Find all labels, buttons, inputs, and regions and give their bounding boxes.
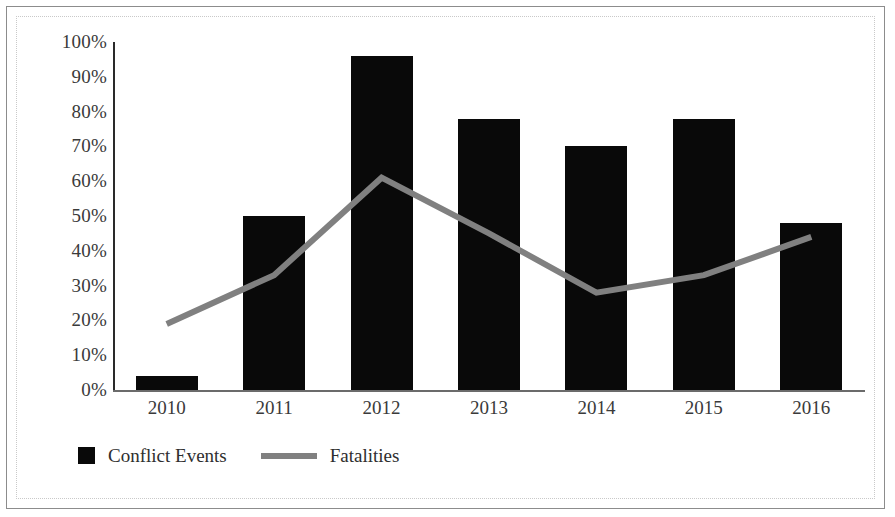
legend-label-fatalities: Fatalities (330, 446, 400, 465)
fatalities-polyline (167, 178, 812, 324)
x-axis-tick-label: 2010 (113, 398, 220, 417)
line-swatch-icon (261, 453, 317, 459)
x-axis-tick-labels: 2010201120122013201420152016 (113, 396, 865, 430)
line-series-fatalities (113, 42, 865, 390)
x-axis-line (113, 390, 865, 392)
y-axis-tick-label: 30% (21, 276, 107, 295)
y-axis-tick-label: 0% (21, 380, 107, 399)
y-axis-tick-label: 80% (21, 102, 107, 121)
y-axis-tick-label: 50% (21, 206, 107, 225)
y-axis-tick-label: 60% (21, 171, 107, 190)
y-axis-tick-label: 100% (21, 32, 107, 51)
x-axis-tick-label: 2016 (758, 398, 865, 417)
x-axis-tick-label: 2013 (435, 398, 542, 417)
legend-item-fatalities: Fatalities (261, 446, 400, 465)
x-axis-tick-label: 2015 (650, 398, 757, 417)
x-axis-tick-label: 2011 (220, 398, 327, 417)
y-axis-tick-label: 90% (21, 67, 107, 86)
y-axis-tick-label: 10% (21, 345, 107, 364)
x-axis-tick-label: 2014 (543, 398, 650, 417)
chart-root: 0%10%20%30%40%50%60%70%80%90%100% 201020… (0, 0, 895, 517)
y-axis-tick-label: 20% (21, 310, 107, 329)
chart-plot-area: 0%10%20%30%40%50%60%70%80%90%100% 201020… (0, 0, 895, 517)
square-swatch-icon (78, 447, 95, 464)
fatalities-line-svg (113, 42, 865, 390)
y-axis-tick-labels: 0%10%20%30%40%50%60%70%80%90%100% (15, 0, 107, 517)
x-axis-tick-label: 2012 (328, 398, 435, 417)
legend-label-conflict-events: Conflict Events (108, 446, 227, 465)
legend-item-conflict-events: Conflict Events (78, 446, 227, 465)
chart-legend: Conflict Events Fatalities (78, 446, 399, 465)
y-axis-tick-label: 40% (21, 241, 107, 260)
y-axis-tick-label: 70% (21, 136, 107, 155)
